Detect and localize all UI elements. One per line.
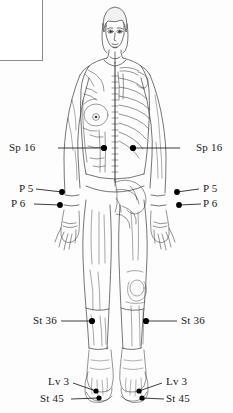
- leader-p5-right: [177, 189, 199, 192]
- leader-lv3-right: [139, 383, 162, 391]
- point-lv3-left: [93, 388, 98, 393]
- point-p6-left: [57, 202, 63, 208]
- point-lv3-right: [136, 388, 141, 393]
- label-st45-right: St 45: [166, 393, 190, 404]
- point-sp16-right: [130, 145, 136, 151]
- point-st45-right: [139, 395, 144, 400]
- leader-p6-left: [34, 204, 60, 205]
- leader-lines: [34, 148, 201, 399]
- label-p5-right: P 5: [203, 183, 218, 194]
- point-p6-right: [176, 202, 182, 208]
- point-st45-left: [96, 395, 101, 400]
- point-sp16-left: [101, 145, 107, 151]
- leader-p6-right: [179, 204, 201, 205]
- point-p5-right: [174, 189, 180, 195]
- label-sp16-right: Sp 16: [196, 142, 222, 153]
- label-p6-left: P 6: [11, 198, 26, 209]
- label-st36-left: St 36: [33, 315, 57, 326]
- label-lv3-left: Lv 3: [48, 376, 69, 387]
- leader-p5-left: [36, 189, 62, 192]
- label-p5-left: P 5: [19, 183, 34, 194]
- left-hand: [55, 210, 80, 250]
- feet: [85, 350, 148, 403]
- leader-lv3-left: [73, 383, 96, 391]
- point-st36-left: [89, 318, 95, 324]
- legs-outline: [83, 200, 147, 350]
- label-lv3-right: Lv 3: [166, 376, 187, 387]
- acupuncture-point-chart: Sp 16 Sp 16 P 5 P 6 P 5 P 6 St 36 St 36 …: [0, 0, 233, 413]
- corner-inset-fragment: [0, 0, 43, 61]
- leader-st45-left: [71, 398, 99, 399]
- right-hand: [151, 210, 176, 250]
- label-st36-right: St 36: [181, 315, 205, 326]
- head-outline: [102, 7, 128, 53]
- point-p5-left: [59, 189, 65, 195]
- anatomical-figure-illustration: [0, 0, 233, 413]
- label-sp16-left: Sp 16: [9, 142, 35, 153]
- label-p6-right: P 6: [203, 198, 218, 209]
- label-st45-left: St 45: [40, 393, 64, 404]
- point-st36-right: [143, 318, 149, 324]
